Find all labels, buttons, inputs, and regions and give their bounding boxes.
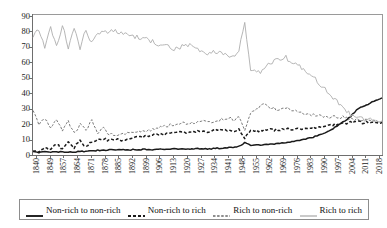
legend-item-non-rich-to-non-rich[interactable]: Non-rich to non-rich [26, 205, 120, 215]
dashed-thin-gray-icon [213, 206, 230, 214]
solid-thick-dark-icon [26, 206, 43, 214]
legend-item-rich-to-rich[interactable]: Rich to rich [300, 205, 363, 215]
series-line-non-rich-to-rich [33, 121, 382, 153]
legend-item-rich-to-non-rich[interactable]: Rich to non-rich [213, 205, 292, 215]
series-plot [0, 0, 387, 228]
series-line-rich-to-rich [33, 22, 382, 121]
solid-thin-lightgray-icon [300, 206, 317, 214]
dashed-thick-dark-icon [128, 206, 145, 214]
legend-item-non-rich-to-rich[interactable]: Non-rich to rich [128, 205, 206, 215]
chart-legend: Non-rich to non-richNon-rich to richRich… [19, 199, 369, 220]
legend-label: Non-rich to non-rich [46, 205, 120, 215]
chart-figure: 0102030405060708090 18401849185718641871… [0, 0, 387, 228]
legend-label: Non-rich to rich [148, 205, 206, 215]
legend-label: Rich to non-rich [233, 205, 292, 215]
legend-label: Rich to rich [320, 205, 363, 215]
